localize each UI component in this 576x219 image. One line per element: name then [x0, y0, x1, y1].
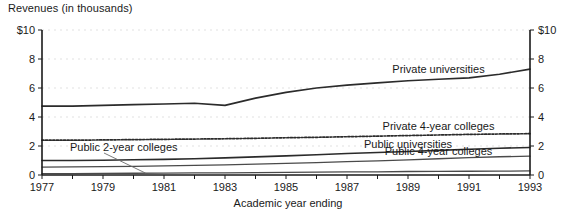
- y-tick-label-right: 0: [538, 169, 544, 181]
- y-tick-label-right: 4: [538, 111, 544, 123]
- series-label-4: Public 2-year colleges: [70, 141, 178, 153]
- y-tick-label-left: 8: [29, 53, 35, 65]
- x-tick-label: 1987: [335, 181, 359, 193]
- y-tick-label-left: $10: [17, 24, 35, 36]
- x-tick-label: 1979: [91, 181, 115, 193]
- y-tick-label-left: 0: [29, 169, 35, 181]
- x-tick-label: 1985: [274, 181, 298, 193]
- series-label-0: Private universities: [392, 63, 485, 75]
- revenues-line-chart: Revenues (in thousands) $10$108866442200…: [0, 0, 576, 219]
- y-tick-label-left: 6: [29, 82, 35, 94]
- x-tick-label: 1983: [213, 181, 237, 193]
- y-tick-label-right: 2: [538, 140, 544, 152]
- y-tick-label-left: 2: [29, 140, 35, 152]
- x-tick-label: 1989: [396, 181, 420, 193]
- y-tick-label-right: 8: [538, 53, 544, 65]
- x-tick-label: 1991: [457, 181, 481, 193]
- series-label-3: Public 4-year colleges: [385, 145, 493, 157]
- y-tick-label-right: $10: [538, 24, 556, 36]
- x-tick-label: 1981: [152, 181, 176, 193]
- chart-plot-area: $10$108866442200197719791981198319851987…: [0, 0, 576, 219]
- series-line-1: [42, 134, 530, 141]
- y-tick-label-left: 4: [29, 111, 35, 123]
- series-line-4: [42, 171, 530, 174]
- x-tick-label: 1993: [518, 181, 542, 193]
- series-label-1: Private 4-year colleges: [383, 120, 495, 132]
- x-axis-title: Academic year ending: [0, 197, 576, 209]
- callout-leader-line: [104, 153, 146, 173]
- tick-labels-group: $10$108866442200197719791981198319851987…: [17, 24, 557, 193]
- series-line-3: [42, 156, 530, 167]
- x-tick-label: 1977: [30, 181, 54, 193]
- y-tick-label-right: 6: [538, 82, 544, 94]
